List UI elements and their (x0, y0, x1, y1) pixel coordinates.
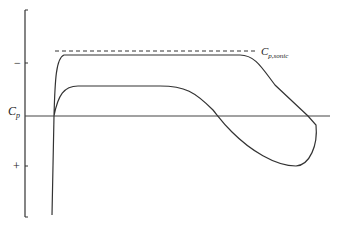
cp-axis-label: Cp (8, 104, 20, 120)
negative-sign: − (14, 56, 21, 70)
pressure-coefficient-diagram: Cp − + Cp,sonic (0, 0, 338, 227)
positive-sign: + (13, 159, 20, 173)
pressure-curve (52, 55, 316, 215)
sonic-label: Cp,sonic (261, 45, 289, 60)
diagram-canvas: Cp − + Cp,sonic (0, 0, 338, 227)
